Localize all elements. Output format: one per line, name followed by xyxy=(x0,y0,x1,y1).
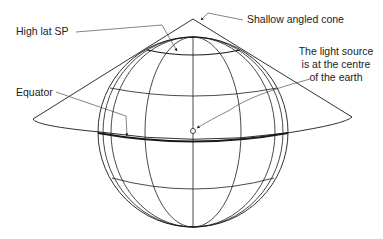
light-source-point xyxy=(191,129,196,134)
conic-projection-diagram: High lat SP Equator Shallow angled cone … xyxy=(0,0,383,239)
label-cone: Shallow angled cone xyxy=(247,13,344,25)
leader-lines xyxy=(56,13,310,136)
label-light-source-1: The light source xyxy=(299,45,374,57)
label-high-lat-sp: High lat SP xyxy=(16,25,69,37)
light-source-leader xyxy=(197,79,310,128)
label-light-source-2: is at the centre xyxy=(302,58,371,70)
label-light-source-3: of the earth xyxy=(309,71,362,83)
label-equator: Equator xyxy=(16,86,53,98)
latitudes xyxy=(110,50,277,189)
high-lat-parallel xyxy=(147,50,240,55)
cone-leader xyxy=(201,13,243,20)
